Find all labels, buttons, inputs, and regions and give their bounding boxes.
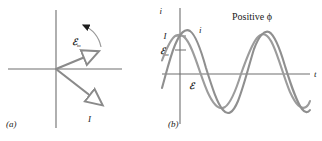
y-tick-label-I: I: [163, 31, 168, 41]
emf-phasor: [56, 52, 97, 69]
phasor-diagram-svg: ℰm I: [0, 0, 158, 141]
x-axis-label: t: [314, 69, 317, 79]
emf-curve-label: ℰ: [189, 81, 196, 91]
current-curve-label: i: [199, 25, 202, 35]
positive-phi-annotation: Positive ϕ: [232, 11, 272, 22]
panel-a-label: (a): [6, 119, 17, 129]
current-phasor-label: I: [87, 114, 92, 124]
emf-curve: [162, 34, 310, 108]
panel-b-label: (b): [168, 119, 179, 129]
physics-figure: ℰm I (a) ℰ, i I ℰm: [0, 0, 322, 141]
emf-curve-label-symbol: ℰ: [189, 81, 196, 91]
y-axis-label: ℰ, i: [158, 6, 163, 16]
y-axis-label-rest: , i: [158, 6, 163, 16]
waveform-plot-svg: ℰ, i I ℰm t Positive ϕ i ℰ: [158, 0, 322, 141]
counterclockwise-rotation-arrow: [83, 25, 101, 47]
current-curve: [162, 30, 310, 113]
panel-b-waveform-plot: ℰ, i I ℰm t Positive ϕ i ℰ (b): [158, 0, 322, 141]
current-phasor: [56, 69, 101, 104]
emf-phasor-label-subscript: m: [77, 43, 81, 48]
emf-phasor-label: ℰm: [72, 37, 81, 48]
panel-a-phasor-diagram: ℰm I (a): [0, 0, 158, 141]
